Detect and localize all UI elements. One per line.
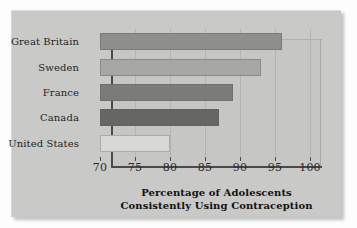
bar xyxy=(100,109,219,126)
x-tick-label: 100 xyxy=(295,161,325,174)
gridline xyxy=(310,29,311,156)
x-axis-title: Percentage of Adolescents Consistently U… xyxy=(111,186,322,212)
bar xyxy=(100,135,170,152)
chart-figure: Great BritainSwedenFranceCanadaUnited St… xyxy=(0,0,357,228)
x-tick-label: 80 xyxy=(155,161,185,174)
x-tick-label: 85 xyxy=(190,161,220,174)
x-tick-label: 75 xyxy=(120,161,150,174)
chart-panel: Great BritainSwedenFranceCanadaUnited St… xyxy=(11,10,341,217)
bar xyxy=(100,59,261,76)
x-tick-label: 90 xyxy=(225,161,255,174)
x-axis-title-line2: Consistently Using Contraception xyxy=(111,199,322,212)
bar xyxy=(100,33,282,50)
category-label: United States xyxy=(8,138,79,149)
x-tick-label: 70 xyxy=(85,161,115,174)
category-label: Canada xyxy=(40,112,79,123)
category-label: Great Britain xyxy=(11,36,79,47)
plot-right-edge xyxy=(320,39,321,167)
category-label: Sweden xyxy=(38,62,79,73)
x-axis-title-line1: Percentage of Adolescents xyxy=(111,186,322,199)
category-label: France xyxy=(43,87,79,98)
bar xyxy=(100,84,233,101)
x-tick-label: 95 xyxy=(260,161,290,174)
